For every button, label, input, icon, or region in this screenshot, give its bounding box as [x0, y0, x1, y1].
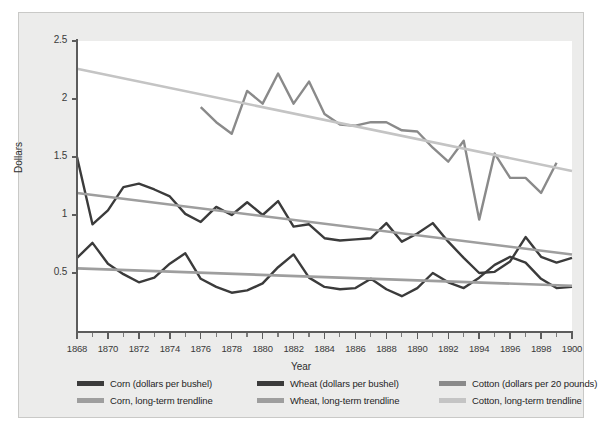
legend-item[interactable]: Wheat (dollars per bushel): [257, 375, 399, 392]
series-line-2: [201, 73, 557, 219]
plot-area: [77, 41, 572, 331]
x-tick-label: 1900: [552, 343, 592, 354]
chart-page: 0.511.522.5 1868187018721874187618781880…: [0, 0, 602, 430]
legend-swatch-icon: [257, 381, 284, 386]
x-tick-minor: [463, 333, 464, 337]
x-tick-major: [478, 333, 479, 339]
x-tick-minor: [154, 333, 155, 337]
y-tick-label: 0.5: [19, 266, 67, 277]
x-tick-major: [355, 333, 356, 339]
x-tick-major: [107, 333, 108, 339]
series-line-1: [77, 157, 572, 273]
series-line-5: [77, 69, 572, 171]
legend-label: Corn, long-term trendline: [110, 395, 213, 406]
y-axis-title: Dollars: [13, 142, 24, 173]
x-tick-major: [509, 333, 510, 339]
y-tick-label: 1.5: [19, 150, 67, 161]
x-tick-minor: [401, 333, 402, 337]
x-tick-major: [200, 333, 201, 339]
legend-column: Wheat (dollars per bushel)Wheat, long-te…: [257, 375, 399, 409]
legend-swatch-icon: [257, 398, 284, 403]
chart-plot-svg: [77, 41, 572, 331]
x-tick-minor: [432, 333, 433, 337]
x-tick-minor: [246, 333, 247, 337]
y-tick-mark: [72, 156, 77, 157]
x-tick-minor: [339, 333, 340, 337]
x-tick-minor: [370, 333, 371, 337]
x-axis-title: Year: [19, 361, 583, 372]
x-tick-major: [540, 333, 541, 339]
y-tick-mark: [72, 272, 77, 273]
x-tick-minor: [494, 333, 495, 337]
y-axis-line: [76, 39, 78, 333]
y-tick-mark: [72, 98, 77, 99]
legend-item[interactable]: Cotton (dollars per 20 pounds): [439, 375, 597, 392]
x-tick-minor: [556, 333, 557, 337]
y-tick-mark: [72, 40, 77, 41]
x-tick-minor: [216, 333, 217, 337]
x-tick-major: [76, 333, 77, 339]
x-tick-major: [324, 333, 325, 339]
x-tick-major: [169, 333, 170, 339]
x-tick-major: [417, 333, 418, 339]
legend-label: Wheat, long-term trendline: [290, 395, 399, 406]
legend-swatch-icon: [439, 381, 466, 386]
y-tick-label: 1: [19, 208, 67, 219]
x-tick-minor: [185, 333, 186, 337]
legend-label: Cotton (dollars per 20 pounds): [472, 378, 597, 389]
legend-swatch-icon: [77, 398, 104, 403]
x-tick-minor: [277, 333, 278, 337]
x-tick-minor: [525, 333, 526, 337]
x-tick-major: [571, 333, 572, 339]
x-tick-minor: [308, 333, 309, 337]
x-tick-major: [293, 333, 294, 339]
x-tick-major: [138, 333, 139, 339]
x-tick-minor: [123, 333, 124, 337]
figure-frame: 0.511.522.5 1868187018721874187618781880…: [18, 12, 584, 418]
legend-item[interactable]: Wheat, long-term trendline: [257, 392, 399, 409]
legend-label: Corn (dollars per bushel): [110, 378, 212, 389]
y-tick-mark: [72, 214, 77, 215]
series-line-4: [77, 193, 572, 254]
legend-swatch-icon: [439, 398, 466, 403]
x-tick-minor: [92, 333, 93, 337]
x-tick-major: [448, 333, 449, 339]
y-tick-label: 2.5: [19, 34, 67, 45]
legend-column: Corn (dollars per bushel)Corn, long-term…: [77, 375, 213, 409]
x-tick-major: [262, 333, 263, 339]
legend-swatch-icon: [77, 381, 104, 386]
legend-column: Cotton (dollars per 20 pounds)Cotton, lo…: [439, 375, 597, 409]
chart-legend: Corn (dollars per bushel)Corn, long-term…: [19, 375, 583, 415]
x-tick-major: [386, 333, 387, 339]
x-tick-major: [231, 333, 232, 339]
legend-label: Wheat (dollars per bushel): [290, 378, 399, 389]
y-tick-label: 2: [19, 92, 67, 103]
legend-item[interactable]: Corn (dollars per bushel): [77, 375, 213, 392]
legend-item[interactable]: Corn, long-term trendline: [77, 392, 213, 409]
legend-item[interactable]: Cotton, long-term trendline: [439, 392, 597, 409]
legend-label: Cotton, long-term trendline: [472, 395, 582, 406]
